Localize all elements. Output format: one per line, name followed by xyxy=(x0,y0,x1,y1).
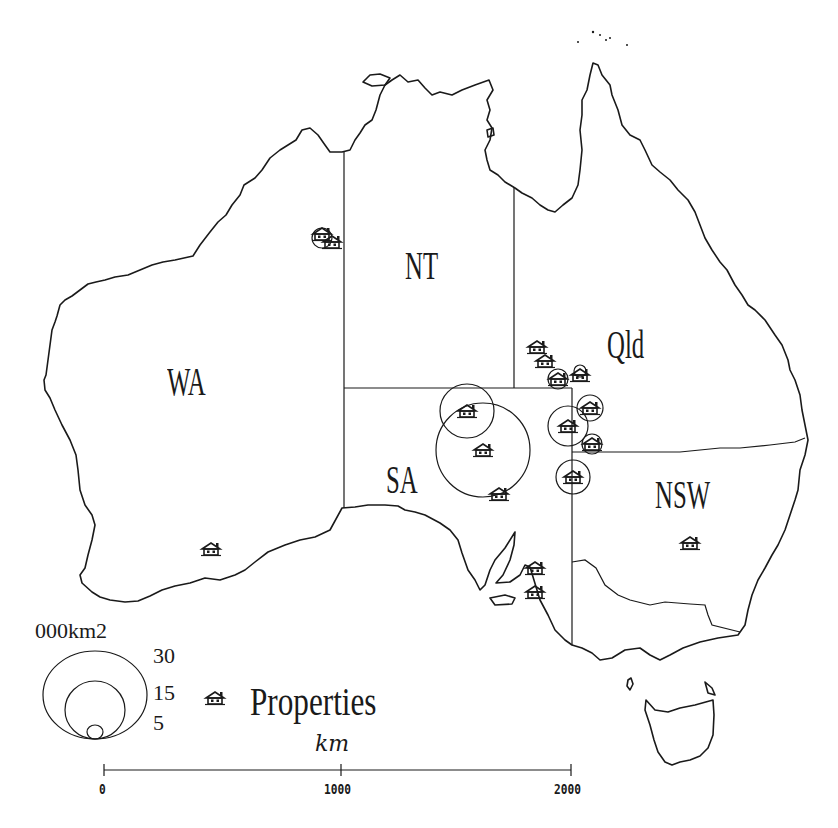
coastline-king-island xyxy=(627,678,633,690)
house-icon xyxy=(201,543,221,556)
scale-unit: km xyxy=(315,733,349,755)
coastline-flinders-island xyxy=(705,682,715,695)
legend-properties-label: Properties xyxy=(250,682,377,722)
state-borders xyxy=(344,152,805,645)
house-icon xyxy=(582,438,602,451)
legend-house-icon xyxy=(205,692,225,705)
scale-tick-1000: 1000 xyxy=(324,782,351,796)
house-icon xyxy=(535,355,555,368)
house-icon xyxy=(570,369,590,382)
house-icon xyxy=(525,562,545,575)
border-qld-nsw xyxy=(572,438,805,452)
house-icon xyxy=(580,402,600,415)
australia-map xyxy=(0,0,838,828)
coastline-kangaroo-island xyxy=(490,595,515,605)
house-icon xyxy=(558,420,578,433)
border-nsw-vic xyxy=(572,560,740,632)
house-icon xyxy=(525,586,545,599)
state-label-qld: Qld xyxy=(607,325,644,365)
scale-tick-2000: 2000 xyxy=(554,782,581,796)
torres-strait-islands xyxy=(577,31,628,46)
legend-value-5: 5 xyxy=(153,712,164,734)
house-icon xyxy=(527,341,547,354)
house-icon xyxy=(489,488,509,501)
coastline-tasmania xyxy=(645,700,714,765)
scale-tick-0: 0 xyxy=(99,782,106,796)
house-icon xyxy=(473,444,493,457)
state-label-sa: SA xyxy=(386,460,418,500)
legend-area-title: 000km2 xyxy=(35,620,107,642)
legend-value-15: 15 xyxy=(153,682,175,704)
legend-area-circles xyxy=(43,651,147,739)
house-icon xyxy=(563,471,583,484)
legend-value-30: 30 xyxy=(153,645,175,667)
area-circles xyxy=(312,228,603,497)
house-icon xyxy=(457,405,477,418)
house-icon xyxy=(680,537,700,550)
coastline-tiwi-islands xyxy=(363,74,390,86)
scale-bar xyxy=(104,764,571,776)
coastline-mainland xyxy=(44,63,808,660)
state-label-wa: WA xyxy=(167,362,206,402)
state-label-nsw: NSW xyxy=(655,475,710,515)
house-icon xyxy=(548,373,568,386)
property-markers xyxy=(201,228,700,599)
state-label-nt: NT xyxy=(405,246,438,286)
